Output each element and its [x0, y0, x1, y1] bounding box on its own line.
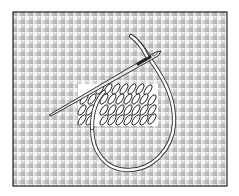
tent-stitch-block: [76, 83, 158, 127]
needlepoint-illustration: [0, 0, 239, 196]
